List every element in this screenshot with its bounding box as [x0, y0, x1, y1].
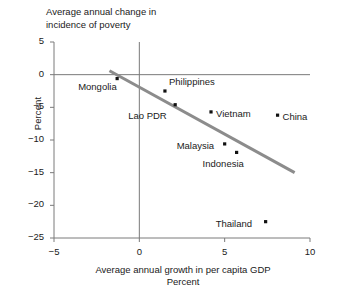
y-tick-label: 5 — [18, 35, 44, 46]
data-point-label: Indonesia — [203, 158, 244, 169]
data-point-label: Mongolia — [78, 81, 117, 92]
data-point — [174, 103, 177, 106]
data-point-label: Philippines — [169, 76, 215, 87]
y-tick-label: 0 — [18, 68, 44, 79]
x-axis-label: Average annual growth in per capita GDP … — [54, 264, 312, 288]
x-tick-label: 5 — [212, 246, 238, 257]
x-tick-label: −5 — [41, 246, 67, 257]
y-tick-label: −20 — [18, 198, 44, 209]
data-point-label: Vietnam — [216, 108, 251, 119]
data-point — [209, 110, 212, 113]
data-point — [223, 142, 226, 145]
data-point-label: Lao PDR — [128, 110, 167, 121]
y-axis-label: Percent — [32, 79, 43, 149]
y-tick-label: −25 — [18, 231, 44, 242]
poverty-gdp-scatter-chart: Average annual change in incidence of po… — [0, 0, 344, 298]
data-point — [264, 220, 267, 223]
x-tick-label: 10 — [297, 246, 323, 257]
data-point-label: China — [283, 111, 308, 122]
data-point-label: Malaysia — [177, 140, 215, 151]
data-point — [235, 151, 238, 154]
y-tick-label: −15 — [18, 166, 44, 177]
data-point-label: Thailand — [216, 218, 252, 229]
data-point — [163, 89, 166, 92]
x-tick-label: 0 — [126, 246, 152, 257]
data-point — [276, 114, 279, 117]
